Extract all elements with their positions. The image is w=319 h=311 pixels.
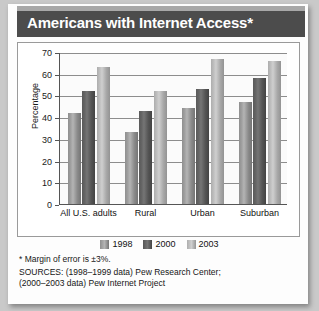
bar-group <box>239 52 281 204</box>
x-axis-label: Rural <box>135 208 157 218</box>
bar-1998-suburban <box>239 102 252 204</box>
chart-legend: 199820002003 <box>18 239 301 249</box>
y-tick-label: 0 <box>47 200 52 210</box>
x-axis-label: Suburban <box>240 208 279 218</box>
x-axis-label: Urban <box>190 208 215 218</box>
legend-label: 2000 <box>155 239 175 249</box>
y-tick-mark <box>55 205 59 206</box>
chart-frame: Percentage 010203040506070 All U.S. adul… <box>17 42 300 237</box>
sources-line-1: SOURCES: (1998–1999 data) Pew Research C… <box>19 267 299 279</box>
legend-label: 1998 <box>112 239 132 249</box>
sources-line-2: (2000–2003 data) Pew Internet Project <box>19 278 299 290</box>
legend-swatch-icon <box>100 240 109 249</box>
chart-title-bar: Americans with Internet Access* <box>17 11 305 37</box>
bar-1998-rural <box>125 132 138 204</box>
page-title: Americans with Internet Access* <box>27 14 253 31</box>
infographic-card: Americans with Internet Access* Percenta… <box>8 4 308 304</box>
y-tick-label: 30 <box>42 135 52 145</box>
legend-label: 2003 <box>199 239 219 249</box>
bar-2003-all-u-s-adults <box>97 67 110 204</box>
y-tick-label: 40 <box>42 113 52 123</box>
bar-group <box>68 52 110 204</box>
y-tick-label: 50 <box>42 91 52 101</box>
legend-swatch-icon <box>187 240 196 249</box>
footnotes: * Margin of error is ±3%. SOURCES: (1998… <box>19 254 299 290</box>
legend-item-2000[interactable]: 2000 <box>143 239 175 249</box>
bar-2003-urban <box>211 59 224 204</box>
bar-2000-urban <box>196 89 209 204</box>
bar-1998-urban <box>182 108 195 204</box>
y-axis-line <box>59 53 60 205</box>
bar-2003-rural <box>154 91 167 204</box>
legend-item-1998[interactable]: 1998 <box>100 239 132 249</box>
bar-group <box>125 52 167 204</box>
x-axis-line <box>59 204 287 205</box>
y-tick-label: 20 <box>42 157 52 167</box>
y-axis-label: Percentage <box>30 83 40 129</box>
y-tick-label: 60 <box>42 70 52 80</box>
bar-group <box>182 52 224 204</box>
bar-2003-suburban <box>268 61 281 204</box>
y-tick-label: 70 <box>42 48 52 58</box>
x-axis-label: All U.S. adults <box>60 208 117 218</box>
legend-item-2003[interactable]: 2003 <box>187 239 219 249</box>
margin-of-error-note: * Margin of error is ±3%. <box>19 254 299 266</box>
bar-1998-all-u-s-adults <box>68 113 81 204</box>
bar-2000-suburban <box>253 78 266 204</box>
legend-swatch-icon <box>143 240 152 249</box>
bar-2000-all-u-s-adults <box>82 91 95 204</box>
y-tick-label: 10 <box>42 178 52 188</box>
plot-area: 010203040506070 <box>59 53 287 205</box>
bar-2000-rural <box>139 111 152 204</box>
